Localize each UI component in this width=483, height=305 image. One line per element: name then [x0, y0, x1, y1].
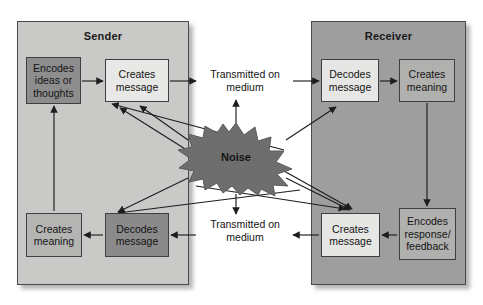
process-box-creates-meaning-receiver[interactable]: Creates meaning — [399, 59, 455, 102]
process-box-creates-message-sender[interactable]: Creates message — [105, 59, 169, 102]
process-box-label: Creates meaning — [29, 223, 79, 248]
noise-burst: Noise — [176, 122, 296, 196]
process-box-encodes-ideas[interactable]: Encodes ideas or thoughts — [26, 57, 81, 104]
process-box-decodes-message-sender[interactable]: Decodes message — [105, 213, 169, 257]
process-box-label: Decodes message — [324, 68, 376, 93]
process-box-label: Encodes response/ feedback — [402, 215, 453, 253]
process-box-label: Decodes message — [108, 223, 166, 248]
process-box-label: Creates message — [324, 223, 377, 248]
process-box-creates-meaning-sender[interactable]: Creates meaning — [26, 213, 82, 257]
label-transmitted-on-medium-top: Transmitted on medium — [199, 68, 291, 93]
process-box-label: Creates message — [108, 68, 166, 93]
process-box-creates-message-receiver[interactable]: Creates message — [321, 213, 380, 257]
process-box-encodes-response[interactable]: Encodes response/ feedback — [399, 208, 456, 260]
process-box-decodes-message-receiver[interactable]: Decodes message — [321, 59, 379, 102]
process-box-label: Creates meaning — [402, 68, 452, 93]
label-transmitted-on-medium-bottom: Transmitted on medium — [199, 218, 291, 243]
process-box-label: Encodes ideas or thoughts — [29, 62, 78, 100]
diagram-canvas: Sender Receiver — [0, 0, 483, 305]
noise-star-icon — [176, 122, 296, 196]
